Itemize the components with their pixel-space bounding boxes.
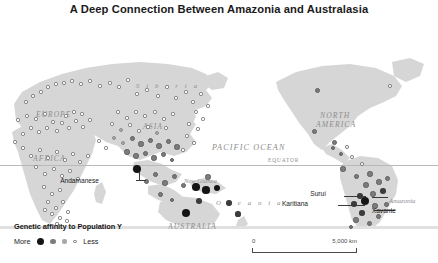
sample-dot xyxy=(153,110,156,113)
sample-dot xyxy=(161,152,166,157)
scale-bar: 0 5,000 km xyxy=(252,238,357,253)
sample-dot xyxy=(46,85,49,88)
sample-dot xyxy=(165,85,168,88)
sample-dot xyxy=(158,192,163,197)
sample-dot xyxy=(192,183,200,191)
legend-scale: More Less xyxy=(14,237,122,246)
geo-label: NORTH xyxy=(320,111,350,120)
sample-dot xyxy=(25,114,28,117)
sample-dot xyxy=(50,212,53,215)
sample-dot xyxy=(388,84,392,88)
sample-dot xyxy=(199,92,202,95)
equator-line xyxy=(0,165,438,166)
sample-dot xyxy=(128,123,131,126)
sample-dot xyxy=(153,172,158,177)
sample-dot xyxy=(55,129,58,132)
sample-dot xyxy=(181,148,184,151)
sample-dot xyxy=(162,180,167,185)
geo-label: AUSTRALIA xyxy=(168,222,217,229)
sample-dot xyxy=(124,149,129,154)
sample-dot xyxy=(80,112,83,115)
sample-dot xyxy=(192,141,195,144)
andamanese-leader xyxy=(136,180,146,181)
sample-dot xyxy=(181,183,186,188)
legend-dot-lowest xyxy=(73,240,77,244)
sample-dot xyxy=(54,82,57,85)
sample-dot xyxy=(185,134,188,137)
sample-dot xyxy=(202,186,209,193)
scale-rule xyxy=(252,248,357,253)
sample-dot xyxy=(117,85,120,88)
map-figure: A Deep Connection Between Amazonia and A… xyxy=(0,0,438,263)
sample-dot xyxy=(206,104,209,107)
sample-dot xyxy=(74,119,77,122)
sample-dot xyxy=(363,182,368,187)
sample-dot xyxy=(134,110,137,113)
surui-leader xyxy=(344,196,366,197)
sample-dot xyxy=(332,140,337,145)
sample-dot xyxy=(66,210,69,213)
sample-dot xyxy=(72,110,75,113)
legend-dot-high xyxy=(50,239,56,245)
sample-dot xyxy=(54,206,57,209)
sample-dot xyxy=(174,144,179,149)
sample-dot xyxy=(61,200,64,203)
sample-dot xyxy=(174,96,177,99)
sample-dot xyxy=(24,100,27,103)
sample-dot xyxy=(367,171,372,176)
sample-dot xyxy=(16,118,19,121)
sample-dot xyxy=(226,200,231,205)
sample-dot xyxy=(376,214,381,219)
sample-dot xyxy=(79,82,82,85)
geo-label: New Guinea xyxy=(184,177,217,184)
sample-dot xyxy=(360,162,364,166)
sample-dot xyxy=(126,78,129,81)
sample-dot xyxy=(68,169,71,172)
population-label: Xavante xyxy=(372,207,396,214)
equator-label: EQUATOR xyxy=(268,157,299,163)
sample-dot xyxy=(340,166,345,171)
sample-dot xyxy=(166,139,171,144)
sample-dot xyxy=(62,81,65,84)
sample-dot xyxy=(86,154,89,157)
sample-dot xyxy=(172,174,177,179)
sample-dot xyxy=(63,158,66,161)
world-map: EQUATOR EUROPEAFRICAASIAS i b e r i aPAC… xyxy=(0,24,438,229)
population-label: Karitiana xyxy=(282,200,308,207)
sample-dot xyxy=(43,208,46,211)
sample-dot xyxy=(70,79,73,82)
sample-dot xyxy=(315,88,320,93)
sample-dot xyxy=(43,112,46,115)
karitiana-leader xyxy=(338,205,365,206)
legend-title: Genetic affinity to Population Y xyxy=(14,222,122,231)
sample-dot xyxy=(312,129,317,134)
geo-label: AMERICA xyxy=(316,120,356,129)
sample-dot xyxy=(45,126,48,129)
sample-dot xyxy=(359,210,364,215)
sample-dot xyxy=(138,141,143,146)
sample-dot xyxy=(143,151,148,156)
sample-dot xyxy=(34,165,37,168)
legend-less-label: Less xyxy=(83,237,98,246)
sample-dot xyxy=(13,140,16,143)
sample-dot xyxy=(151,155,156,160)
sample-dot xyxy=(110,122,113,125)
sample-dot xyxy=(148,138,153,143)
sample-dot xyxy=(43,172,46,175)
legend: Genetic affinity to Population Y More Le… xyxy=(14,222,122,246)
legend-dot-highest xyxy=(37,238,44,245)
sample-dot xyxy=(370,191,375,196)
sample-dot xyxy=(108,81,111,84)
sample-dot xyxy=(55,150,58,153)
sample-dot xyxy=(88,118,91,121)
sample-dot xyxy=(21,146,24,149)
population-label: Andamanese xyxy=(60,177,99,184)
scale-min-label: 0 xyxy=(252,238,255,244)
sample-dot xyxy=(78,160,81,163)
sample-dot xyxy=(71,152,74,155)
sample-dot xyxy=(133,153,138,158)
sample-dot xyxy=(29,126,32,129)
sample-dot xyxy=(187,122,190,125)
sample-dot xyxy=(156,143,161,148)
sample-dot xyxy=(130,136,135,141)
